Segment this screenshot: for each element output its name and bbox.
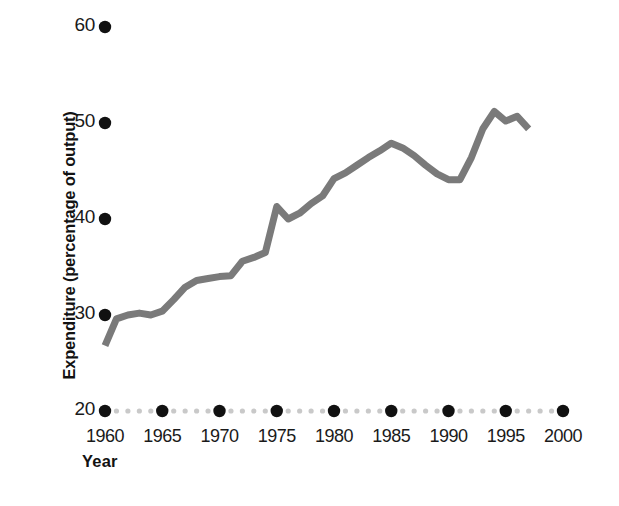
x-axis-minor-tick-dot (263, 408, 268, 413)
x-axis-major-tick-dot (213, 405, 225, 417)
x-axis-tick-label: 1960 (74, 426, 136, 447)
expenditure-line-series (105, 111, 529, 345)
x-axis-minor-tick-dot (457, 408, 462, 413)
x-axis-minor-tick-dot (309, 408, 314, 413)
x-axis-major-tick-dot (156, 405, 168, 417)
x-axis-minor-tick-dot (171, 408, 176, 413)
x-axis-title: Year (82, 452, 118, 471)
y-axis-tick-dot (99, 117, 111, 129)
x-axis-tick-label: 1995 (475, 426, 537, 447)
x-axis-minor-tick-dot (366, 408, 371, 413)
x-axis-minor-tick-dot (549, 408, 554, 413)
x-axis-minor-tick-dot (228, 408, 233, 413)
x-axis-minor-tick-dot (320, 408, 325, 413)
x-axis-major-tick-dot (385, 405, 397, 417)
x-axis-minor-tick-dot (434, 408, 439, 413)
x-axis-minor-tick-dot (480, 408, 485, 413)
x-axis-tick-label: 1970 (189, 426, 251, 447)
x-axis-minor-tick-dot (194, 408, 199, 413)
x-axis-minor-tick-dot (492, 408, 497, 413)
x-axis-minor-tick-dot (377, 408, 382, 413)
x-axis-tick-label: 1985 (360, 426, 422, 447)
x-axis-tick-label: 1975 (246, 426, 308, 447)
x-axis-minor-tick-dot (400, 408, 405, 413)
y-axis-tick-dot (99, 309, 111, 321)
x-axis-minor-tick-dot (125, 408, 130, 413)
x-axis-tick-label: 1990 (418, 426, 480, 447)
x-axis-minor-tick-dot (286, 408, 291, 413)
x-axis-major-tick-dot (271, 405, 283, 417)
x-axis-minor-tick-dot (343, 408, 348, 413)
x-axis-minor-tick-dot (515, 408, 520, 413)
x-axis-minor-tick-dot (538, 408, 543, 413)
y-axis-tick-label: 40 (53, 206, 95, 228)
x-axis-tick-label: 1980 (303, 426, 365, 447)
y-axis-tick-label: 50 (53, 110, 95, 132)
y-axis-tick-markers (99, 21, 111, 321)
x-axis-minor-tick-dot (148, 408, 153, 413)
y-axis-tick-label: 30 (53, 302, 95, 324)
y-axis-tick-dot (99, 213, 111, 225)
x-axis-major-tick-dot (442, 405, 454, 417)
x-axis-minor-tick-dot (240, 408, 245, 413)
x-axis-minor-tick-dot (354, 408, 359, 413)
chart-figure: Expenditure (percentage of output) Year … (0, 0, 619, 506)
x-axis-major-tick-dot (500, 405, 512, 417)
x-axis-minor-tick-dot (114, 408, 119, 413)
x-axis-minor-tick-dot (423, 408, 428, 413)
x-axis-dotted-line (99, 405, 569, 417)
x-axis-major-tick-dot (99, 405, 111, 417)
x-axis-major-tick-dot (557, 405, 569, 417)
x-axis-minor-tick-dot (412, 408, 417, 413)
x-axis-major-tick-dot (328, 405, 340, 417)
x-axis-tick-label: 1965 (131, 426, 193, 447)
y-axis-tick-dot (99, 21, 111, 33)
x-axis-minor-tick-dot (205, 408, 210, 413)
x-axis-tick-label: 2000 (532, 426, 594, 447)
x-axis-minor-tick-dot (183, 408, 188, 413)
x-axis-minor-tick-dot (469, 408, 474, 413)
x-axis-minor-tick-dot (297, 408, 302, 413)
x-axis-minor-tick-dot (251, 408, 256, 413)
y-axis-tick-label: 20 (53, 398, 95, 420)
y-axis-tick-label: 60 (53, 14, 95, 36)
x-axis-minor-tick-dot (526, 408, 531, 413)
x-axis-minor-tick-dot (137, 408, 142, 413)
